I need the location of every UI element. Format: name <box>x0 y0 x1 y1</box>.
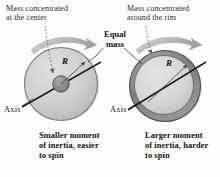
equal-mass-leaders <box>88 48 142 64</box>
callout-mass-at-center: Mass concentrated at the center <box>6 4 68 23</box>
callout-equal-mass: Equal mass <box>98 30 132 50</box>
right-radius-label: R <box>166 58 172 68</box>
equal-mass-leader-left <box>88 48 103 62</box>
right-disk-caption: Larger moment of inertia, harder to spin <box>145 131 208 162</box>
right-disk-group <box>128 26 206 122</box>
right-callout-leader <box>146 26 151 54</box>
right-axis-label: Axis <box>110 105 127 114</box>
left-axis-label: Axis <box>4 105 21 114</box>
left-disk-group <box>22 26 101 121</box>
figure-canvas: Mass concentrated at the center Mass con… <box>0 0 220 177</box>
left-radius-label: R <box>62 56 68 66</box>
right-disk-body <box>135 56 194 115</box>
callout-mass-around-rim: Mass concentrated around the rim <box>127 4 189 23</box>
left-disk-caption: Smaller moment of inertia, easier to spi… <box>39 131 100 162</box>
